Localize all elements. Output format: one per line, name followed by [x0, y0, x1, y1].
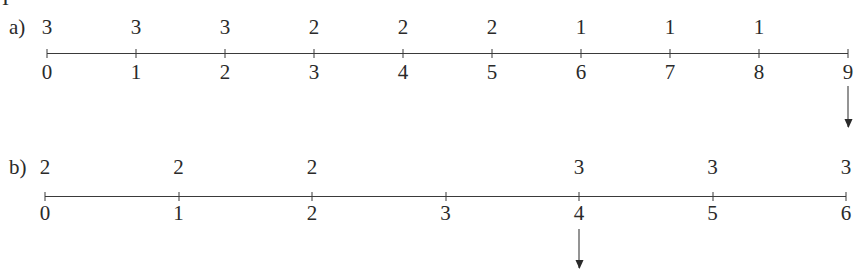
value-label: 3	[220, 17, 231, 38]
tick-label: 0	[42, 62, 53, 83]
tick-mark	[136, 49, 137, 58]
value-label: 2	[309, 17, 320, 38]
value-label: 2	[173, 157, 184, 178]
axis-line-a	[47, 53, 848, 54]
value-label: 3	[42, 17, 53, 38]
tick-label: 8	[754, 62, 765, 83]
cropped-text-fragment: I	[2, 0, 9, 9]
tick-label: 1	[131, 62, 142, 83]
value-label: 1	[754, 17, 765, 38]
tick-mark	[312, 192, 313, 201]
value-label: 3	[131, 17, 142, 38]
tick-mark	[45, 192, 46, 201]
value-label: 2	[487, 17, 498, 38]
tick-mark	[225, 49, 226, 58]
value-label: 2	[307, 157, 318, 178]
tick-label: 6	[841, 203, 852, 224]
tick-mark	[403, 49, 404, 58]
tick-mark	[846, 192, 847, 201]
tick-mark	[670, 49, 671, 58]
value-label: 1	[665, 17, 676, 38]
value-label: 3	[707, 157, 718, 178]
down-arrow-icon	[848, 86, 849, 127]
tick-mark	[47, 49, 48, 58]
tick-label: 5	[487, 62, 498, 83]
value-label: 3	[574, 157, 585, 178]
tick-label: 9	[843, 62, 854, 83]
tick-mark	[492, 49, 493, 58]
tick-mark	[579, 192, 580, 201]
value-label: 1	[576, 17, 587, 38]
tick-mark	[445, 192, 446, 201]
tick-mark	[848, 49, 849, 58]
value-label: 2	[40, 157, 51, 178]
tick-mark	[178, 192, 179, 201]
tick-mark	[759, 49, 760, 58]
tick-label: 7	[665, 62, 676, 83]
tick-mark	[581, 49, 582, 58]
part-label-a: a)	[9, 17, 25, 38]
tick-label: 1	[173, 203, 184, 224]
tick-label: 2	[220, 62, 231, 83]
value-label: 3	[841, 157, 852, 178]
tick-mark	[314, 49, 315, 58]
tick-label: 4	[574, 203, 585, 224]
tick-label: 6	[576, 62, 587, 83]
value-label: 2	[398, 17, 409, 38]
part-label-b: b)	[9, 157, 27, 178]
tick-label: 4	[398, 62, 409, 83]
number-line-diagram: I a) 0123456789 333222111 b) 0123456 222…	[0, 0, 860, 270]
tick-mark	[712, 192, 713, 201]
tick-label: 0	[40, 203, 51, 224]
tick-label: 3	[309, 62, 320, 83]
tick-label: 5	[707, 203, 718, 224]
down-arrow-icon	[579, 229, 580, 268]
tick-label: 2	[307, 203, 318, 224]
tick-label: 3	[440, 203, 451, 224]
